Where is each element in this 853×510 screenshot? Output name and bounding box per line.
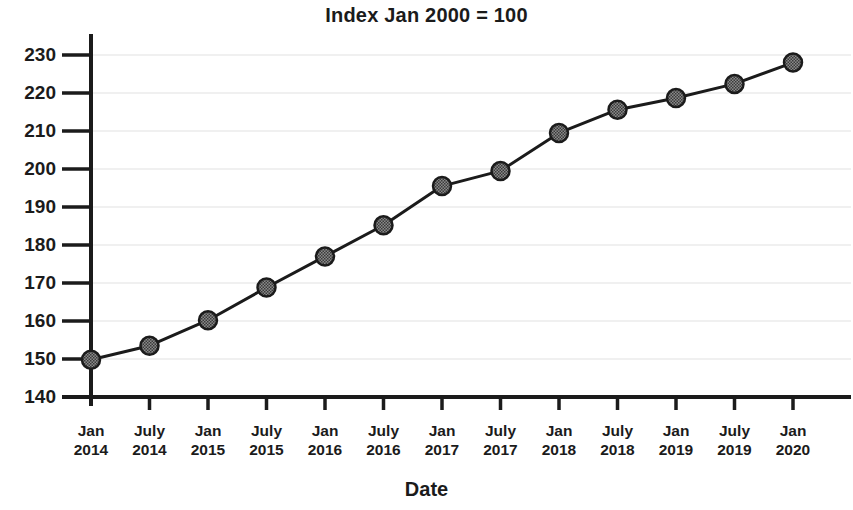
x-axis-tick-label: July2014: [118, 421, 182, 459]
data-point-marker: [141, 337, 159, 355]
data-point-marker: [316, 247, 334, 265]
x-tick-month: July: [703, 421, 767, 440]
x-axis-tick-label: July2019: [703, 421, 767, 459]
y-axis-tick-label: 230: [0, 45, 56, 64]
x-tick-month: Jan: [644, 421, 708, 440]
x-axis-tick-label: Jan2015: [176, 421, 240, 459]
x-tick-year: 2014: [59, 440, 123, 459]
x-tick-year: 2019: [644, 440, 708, 459]
x-axis-tick-label: July2018: [586, 421, 650, 459]
y-axis-ticks: [62, 55, 91, 397]
x-tick-year: 2017: [410, 440, 474, 459]
y-axis-tick-label: 190: [0, 197, 56, 216]
x-axis-tick-label: Jan2020: [761, 421, 825, 459]
y-axis-tick-label: 150: [0, 349, 56, 368]
data-point-marker: [258, 279, 276, 297]
x-axis-tick-label: July2015: [235, 421, 299, 459]
data-point-marker: [726, 75, 744, 93]
x-tick-year: 2020: [761, 440, 825, 459]
x-axis-tick-label: Jan2018: [527, 421, 591, 459]
chart-container: Index Jan 2000 = 100 1401501601701801902…: [0, 0, 853, 510]
data-point-marker: [433, 177, 451, 195]
y-axis-tick-label: 140: [0, 387, 56, 406]
x-tick-year: 2018: [527, 440, 591, 459]
x-tick-year: 2014: [118, 440, 182, 459]
x-axis-tick-label: July2016: [352, 421, 416, 459]
y-axis-tick-label: 170: [0, 273, 56, 292]
x-tick-month: July: [118, 421, 182, 440]
data-point-marker: [609, 101, 627, 119]
x-axis-tick-label: July2017: [469, 421, 533, 459]
x-tick-year: 2018: [586, 440, 650, 459]
data-point-marker: [199, 311, 217, 329]
x-axis-title: Date: [0, 478, 853, 501]
y-axis-tick-label: 210: [0, 121, 56, 140]
x-tick-month: Jan: [410, 421, 474, 440]
x-tick-month: July: [352, 421, 416, 440]
data-point-marker: [375, 216, 393, 234]
y-axis-tick-label: 200: [0, 159, 56, 178]
x-tick-month: Jan: [527, 421, 591, 440]
x-tick-year: 2015: [176, 440, 240, 459]
x-tick-month: July: [235, 421, 299, 440]
data-point-marker: [667, 89, 685, 107]
x-axis-tick-label: Jan2017: [410, 421, 474, 459]
x-tick-year: 2015: [235, 440, 299, 459]
y-axis-tick-label: 220: [0, 83, 56, 102]
y-axis-tick-label: 180: [0, 235, 56, 254]
x-tick-month: Jan: [293, 421, 357, 440]
x-axis-tick-label: Jan2014: [59, 421, 123, 459]
x-tick-year: 2016: [293, 440, 357, 459]
data-point-marker: [82, 351, 100, 369]
data-point-marker: [492, 162, 510, 180]
data-line-series: [91, 63, 793, 360]
data-point-marker: [550, 124, 568, 142]
x-tick-month: July: [469, 421, 533, 440]
x-tick-month: Jan: [59, 421, 123, 440]
x-tick-year: 2019: [703, 440, 767, 459]
x-tick-year: 2017: [469, 440, 533, 459]
x-tick-year: 2016: [352, 440, 416, 459]
x-tick-month: Jan: [176, 421, 240, 440]
y-axis-tick-label: 160: [0, 311, 56, 330]
x-tick-month: July: [586, 421, 650, 440]
data-point-marker: [784, 54, 802, 72]
x-axis-tick-label: Jan2019: [644, 421, 708, 459]
x-axis-tick-label: Jan2016: [293, 421, 357, 459]
x-tick-month: Jan: [761, 421, 825, 440]
